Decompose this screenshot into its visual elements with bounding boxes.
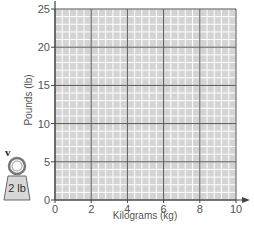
y-axis-label: Pounds (lb)	[23, 74, 34, 125]
x-tick-label: 2	[88, 203, 94, 215]
plot-area	[55, 1, 250, 203]
x-tick-label: 0	[52, 203, 58, 215]
y-tick-label: 20	[38, 41, 50, 53]
y-tick-label: 10	[38, 118, 50, 130]
graph-paper-chart: 0246810 0510152025 Kilograms (kg) Pounds…	[0, 0, 254, 240]
x-tick-label: 10	[230, 203, 242, 215]
x-axis-label: Kilograms (kg)	[113, 210, 177, 221]
y-tick-label: 25	[38, 3, 50, 15]
x-tick-label: 8	[197, 203, 203, 215]
y-tick-label: 15	[38, 79, 50, 91]
weight-label: 2 lb	[8, 182, 26, 194]
weight-icon: 2 lb	[3, 155, 45, 203]
